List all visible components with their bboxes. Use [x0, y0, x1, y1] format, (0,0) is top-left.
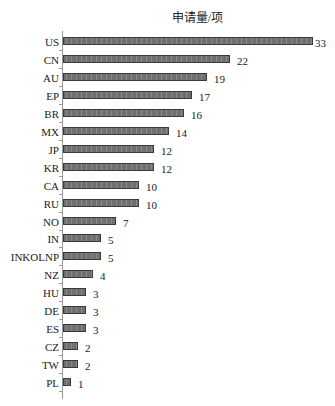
category-label: IN [0, 234, 59, 244]
value-label: 7 [123, 218, 129, 228]
bar [63, 306, 86, 314]
value-label: 33 [315, 38, 326, 48]
bar-row: NZ4 [0, 270, 335, 280]
bar-row: EP17 [0, 91, 335, 101]
value-label: 5 [108, 253, 114, 263]
axis-tick [59, 140, 62, 141]
bar [63, 163, 154, 171]
value-label: 22 [237, 56, 248, 66]
axis-tick [59, 337, 62, 338]
category-label: NO [0, 217, 59, 227]
value-label: 3 [93, 307, 99, 317]
axis-tick [59, 247, 62, 248]
axis-tick [59, 86, 62, 87]
axis-tick [59, 194, 62, 195]
axis-tick [59, 319, 62, 320]
bar [63, 73, 207, 81]
bar [63, 378, 71, 386]
value-label: 2 [85, 343, 91, 353]
axis-tick [59, 373, 62, 374]
axis-tick [59, 50, 62, 51]
category-label: DE [0, 306, 59, 316]
bar-row: US33 [0, 37, 335, 47]
bar-row: NO7 [0, 217, 335, 227]
bar-row: KR12 [0, 163, 335, 173]
bar-row: CA10 [0, 181, 335, 191]
axis-tick [59, 68, 62, 69]
category-label: HU [0, 288, 59, 298]
bar [63, 109, 184, 117]
value-label: 19 [214, 74, 225, 84]
bar-row: ES3 [0, 324, 335, 334]
value-label: 3 [93, 325, 99, 335]
category-label: EP [0, 91, 59, 101]
bar [63, 199, 139, 207]
bar [63, 360, 78, 368]
bar-row: HU3 [0, 288, 335, 298]
category-label: NZ [0, 270, 59, 280]
bar [63, 270, 93, 278]
bar-row: JP12 [0, 145, 335, 155]
value-label: 17 [199, 92, 210, 102]
bar [63, 91, 192, 99]
category-label: AU [0, 73, 59, 83]
category-label: RU [0, 199, 59, 209]
bar [63, 252, 101, 260]
value-label: 12 [161, 164, 172, 174]
bar [63, 234, 101, 242]
category-label: US [0, 37, 59, 47]
bar [63, 127, 169, 135]
value-label: 10 [146, 182, 157, 192]
axis-tick [59, 301, 62, 302]
category-label: CA [0, 181, 59, 191]
bar [63, 37, 313, 45]
value-label: 14 [176, 128, 187, 138]
category-label: JP [0, 145, 59, 155]
axis-tick [59, 265, 62, 266]
category-label: TW [0, 360, 59, 370]
bar-row: CN22 [0, 55, 335, 65]
bar-row: CZ2 [0, 342, 335, 352]
bar-row: RU10 [0, 199, 335, 209]
bar [63, 181, 139, 189]
chart-title: 申请量/项 [0, 8, 335, 26]
value-label: 12 [161, 146, 172, 156]
axis-tick [59, 104, 62, 105]
bar-row: AU19 [0, 73, 335, 83]
value-label: 2 [85, 361, 91, 371]
axis-tick [59, 212, 62, 213]
value-label: 4 [100, 271, 106, 281]
bar [63, 288, 86, 296]
value-label: 10 [146, 200, 157, 210]
bar [63, 324, 86, 332]
axis-tick [59, 122, 62, 123]
value-label: 16 [191, 110, 202, 120]
value-label: 1 [78, 379, 84, 389]
axis-tick [59, 355, 62, 356]
bar [63, 145, 154, 153]
category-label: PL [0, 378, 59, 388]
bar [63, 342, 78, 350]
bar [63, 55, 230, 63]
axis-tick [59, 283, 62, 284]
bar-row: TW2 [0, 360, 335, 370]
category-label: KR [0, 163, 59, 173]
value-label: 5 [108, 235, 114, 245]
value-label: 3 [93, 289, 99, 299]
axis-tick [59, 176, 62, 177]
axis-tick [59, 158, 62, 159]
category-label: CN [0, 55, 59, 65]
category-label: INKOLNP [0, 252, 59, 262]
category-label: CZ [0, 342, 59, 352]
bar-row: MX14 [0, 127, 335, 137]
bar-row: DE3 [0, 306, 335, 316]
category-label: MX [0, 127, 59, 137]
axis-tick [59, 391, 62, 392]
category-label: ES [0, 324, 59, 334]
axis-tick [59, 230, 62, 231]
bar-row: PL1 [0, 378, 335, 388]
bar-row: IN5 [0, 234, 335, 244]
bar-row: INKOLNP5 [0, 252, 335, 262]
bar-row: BR16 [0, 109, 335, 119]
bar [63, 217, 116, 225]
